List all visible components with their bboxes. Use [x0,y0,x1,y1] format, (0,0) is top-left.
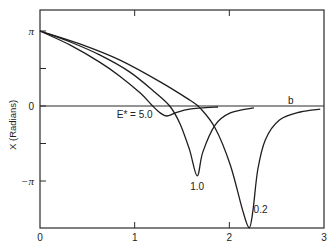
chart: 0123π0−π E* = 5.01.00.2b X (Radians) [0,0,336,248]
x-tick-label: 2 [227,232,233,243]
series-line-e-5-0 [40,31,218,116]
series-line-e-1-0 [40,31,254,176]
annotation-label: E* = 5.0 [117,109,153,120]
annotations: E* = 5.01.00.2b [117,95,294,215]
y-tick-label: 0 [28,101,34,112]
y-axis-label: X (Radians) [7,100,18,150]
y-tick-label: −π [21,175,34,187]
curves [40,31,320,228]
y-tick-label: π [28,25,34,37]
annotation-label: 1.0 [190,181,204,192]
series-line-e-0-2 [40,31,320,228]
tick-labels: 0123π0−π [21,25,327,243]
annotation-label: 0.2 [254,204,268,215]
x-tick-label: 1 [132,232,138,243]
annotation-label: b [288,95,294,106]
x-tick-label: 0 [37,232,43,243]
x-tick-label: 3 [321,232,327,243]
